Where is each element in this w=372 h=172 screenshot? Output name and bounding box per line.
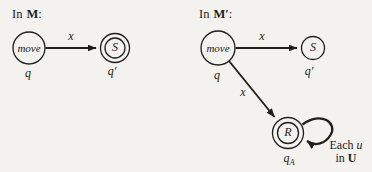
self-loop-set-u: U [348,151,357,165]
machine-mprime-title-word: In [199,7,209,21]
diagram-shapes [0,0,372,172]
state-r-label-mprime: R [284,126,291,139]
machine-m-title-word: In [12,7,22,21]
state-move-label-mprime: move [206,42,229,54]
machine-mprime-title-name: M′ [213,7,228,21]
automata-figure: InM: InM′: move S x q q′ move S R x x q … [0,0,372,172]
transition-x-label-m: x [68,30,73,43]
transition-x-label-mprime-diag: x [240,86,245,99]
state-id-qa-subscript: A [289,157,294,167]
self-loop-word-in: in [335,151,344,165]
self-loop-var-u: u [356,138,362,152]
self-loop-caption: Each u in U [330,139,363,165]
state-id-qprime-mprime: q′ [305,65,314,78]
state-s-label-mprime: S [310,41,316,54]
transition-arrow-mprime-q-to-qa [229,61,275,117]
self-loop-caption-line2: in U [330,152,363,165]
transition-x-label-mprime-top: x [259,30,264,43]
machine-mprime-title: InM′: [199,7,232,22]
self-loop-arrow-r [303,118,333,144]
machine-m-title-name: M [26,7,38,21]
state-id-qprime-m: q′ [108,65,117,78]
machine-m-title-colon: : [38,7,41,21]
state-id-q-m: q [25,67,31,80]
state-id-q-mprime: q [214,69,220,82]
state-move-label-m: move [17,42,40,54]
state-s-label-m: S [112,41,118,54]
machine-m-title: InM: [12,7,42,22]
self-loop-word-each: Each [330,138,354,152]
machine-mprime-title-colon: : [229,7,232,21]
state-id-qa-mprime: qA [283,152,294,165]
